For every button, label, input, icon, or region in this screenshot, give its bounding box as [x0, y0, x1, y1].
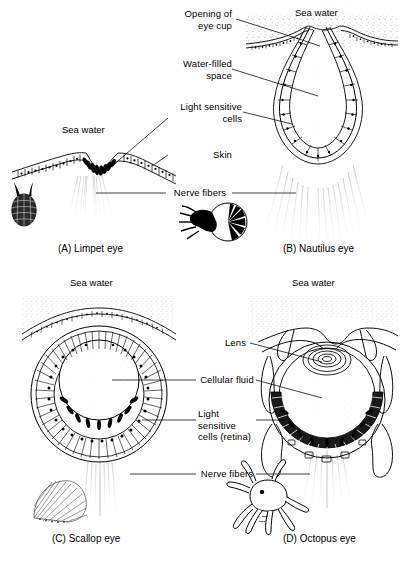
limpet-animal-illustration	[12, 182, 36, 226]
figure-artwork	[0, 0, 400, 566]
mollusc-eye-evolution-figure: Opening of eye cup Water-filled space Li…	[0, 0, 400, 566]
label-opening-of-eye-cup: Opening of eye cup	[160, 8, 232, 31]
label-skin: Skin	[174, 149, 232, 161]
nautilus-animal-illustration	[179, 203, 247, 241]
scallop-sea-water-texture	[22, 296, 176, 330]
scallop-nerve-fibers	[84, 460, 116, 516]
panel-b-nautilus-eye	[179, 14, 398, 242]
label-water-filled-space: Water-filled space	[156, 58, 232, 81]
panel-a-limpet-eye	[12, 153, 176, 226]
octopus-sea-water-texture	[248, 296, 398, 336]
label-light-sensitive-cells-retina: Light sensitive cells (retina)	[198, 408, 258, 443]
limpet-nerve-fibers	[70, 176, 110, 216]
nautilus-nerve-fibers	[268, 165, 367, 242]
panel-c-scallop-eye	[22, 296, 176, 523]
caption-panel-a: (A) Limpet eye	[58, 243, 123, 254]
caption-panel-b: (B) Nautilus eye	[283, 243, 354, 254]
octopus-nerve-fibers	[304, 450, 350, 508]
label-nerve-fibers-bottom: Nerve fibers	[199, 468, 255, 480]
caption-panel-d: (D) Octopus eye	[283, 533, 356, 544]
label-cellular-fluid: Cellular fluid	[199, 374, 255, 386]
label-light-sensitive-cells: Light sensitive cells	[156, 101, 242, 124]
leader-skin	[152, 155, 168, 166]
label-sea-water-limpet: Sea water	[62, 124, 105, 135]
label-sea-water-nautilus: Sea water	[295, 7, 338, 18]
label-lens: Lens	[188, 337, 246, 349]
leader-light-sensitive-cells-limpet	[112, 118, 168, 166]
label-sea-water-octopus: Sea water	[292, 277, 335, 288]
label-nerve-fibers-top: Nerve fibers	[168, 187, 232, 199]
scallop-animal-illustration	[34, 481, 87, 523]
caption-panel-c: (C) Scallop eye	[52, 533, 120, 544]
label-sea-water-scallop: Sea water	[70, 277, 113, 288]
